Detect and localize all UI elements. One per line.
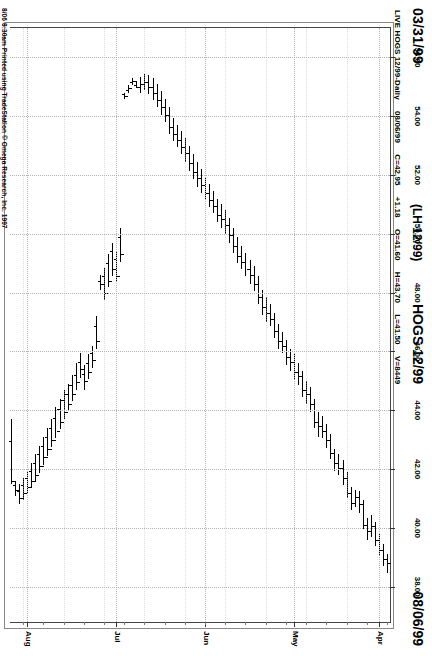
print-credit-label: 8/06 8:30am Printed using TradeStation ©… — [1, 8, 8, 229]
ohlc-close-tick — [17, 491, 20, 492]
ohlc-open-tick — [311, 404, 314, 405]
date-axis-tick — [294, 622, 295, 627]
ohlc-close-tick — [9, 441, 12, 442]
ohlc-open-tick — [335, 463, 338, 464]
ohlc-close-tick — [98, 281, 101, 282]
price-axis-tick — [390, 587, 395, 588]
price-axis-tick — [390, 234, 395, 235]
price-axis-tick — [390, 116, 395, 117]
ohlc-high-low-line — [383, 544, 384, 566]
date-axis-minor-tick — [326, 622, 327, 625]
ohlc-high-low-line — [88, 354, 89, 379]
ohlc-high-low-line — [241, 246, 242, 270]
date-axis-minor-tick — [347, 622, 348, 625]
price-axis-tick-label: 50.00 — [413, 224, 422, 244]
ohlc-high-low-line — [92, 346, 93, 368]
ohlc-open-tick — [255, 284, 258, 285]
ohlc-close-tick — [126, 90, 129, 91]
ohlc-open-tick — [218, 215, 221, 216]
ohlc-high-low-line — [31, 463, 32, 488]
ohlc-high-low-line — [213, 191, 214, 213]
quote-change: +1.18 — [393, 197, 402, 218]
ohlc-open-tick — [52, 440, 55, 441]
ohlc-open-tick — [352, 503, 355, 504]
ohlc-high-low-line — [246, 253, 247, 277]
date-axis-minor-tick — [84, 622, 85, 625]
ohlc-open-tick — [186, 153, 189, 154]
ohlc-open-tick — [194, 172, 197, 173]
date-subgridline — [225, 28, 226, 622]
ohlc-open-tick — [28, 487, 31, 488]
ohlc-open-tick — [368, 531, 371, 532]
date-gridline — [27, 28, 28, 622]
ohlc-close-tick — [74, 375, 77, 376]
plot-area[interactable]: 56.0054.0052.0050.0048.0046.0044.0042.00… — [10, 27, 391, 623]
ohlc-open-tick — [307, 394, 310, 395]
date-axis-minor-tick — [367, 622, 368, 625]
ohlc-open-tick — [73, 394, 76, 395]
ohlc-open-tick — [129, 88, 132, 89]
ohlc-high-low-line — [326, 424, 327, 449]
ohlc-high-low-line — [68, 384, 69, 410]
date-subgridline — [23, 28, 24, 622]
ohlc-high-low-line — [209, 184, 210, 208]
ohlc-open-tick — [380, 550, 383, 551]
ohlc-open-tick — [162, 107, 165, 108]
ohlc-open-tick — [89, 372, 92, 373]
price-axis-tick — [390, 175, 395, 176]
ohlc-high-low-line — [96, 316, 97, 348]
ohlc-open-tick — [287, 357, 290, 358]
ohlc-open-tick — [32, 481, 35, 482]
ohlc-open-tick — [77, 382, 80, 383]
ohlc-close-tick — [134, 85, 137, 86]
quote-high: H=43.70 — [393, 272, 402, 303]
ohlc-high-low-line — [60, 399, 61, 430]
ohlc-high-low-line — [237, 237, 238, 263]
ohlc-close-tick — [78, 362, 81, 363]
ohlc-high-low-line — [254, 266, 255, 291]
price-gridline — [10, 469, 390, 470]
date-axis-minor-tick — [144, 622, 145, 625]
date-gridline — [294, 28, 295, 622]
ohlc-high-low-line — [310, 387, 311, 412]
price-axis-tick-label: 40.00 — [413, 518, 422, 538]
ohlc-open-tick — [48, 449, 51, 450]
ohlc-open-tick — [145, 82, 148, 83]
ohlc-high-low-line — [51, 419, 52, 447]
date-axis-minor-tick — [104, 622, 105, 625]
ohlc-open-tick — [174, 134, 177, 135]
ohlc-close-tick — [106, 263, 109, 264]
ohlc-high-low-line — [274, 313, 275, 338]
ohlc-open-tick — [230, 235, 233, 236]
date-axis-tick-label: May — [291, 631, 300, 647]
date-axis-tick-label: Jul — [113, 631, 122, 643]
date-subgridline — [185, 28, 186, 622]
ohlc-high-low-line — [233, 228, 234, 253]
ohlc-high-low-line — [355, 490, 356, 508]
ohlc-open-tick — [81, 369, 84, 370]
ohlc-high-low-line — [189, 146, 190, 171]
ohlc-open-tick — [299, 376, 302, 377]
ohlc-open-tick — [348, 493, 351, 494]
ohlc-high-low-line — [72, 375, 73, 401]
price-axis-tick-label: 42.00 — [413, 459, 422, 479]
ohlc-high-low-line — [201, 169, 202, 193]
ohlc-high-low-line — [80, 353, 81, 378]
ohlc-open-tick — [16, 490, 19, 491]
ohlc-open-tick — [259, 297, 262, 298]
ohlc-open-tick — [57, 431, 60, 432]
ohlc-high-low-line — [298, 363, 299, 385]
price-axis-tick-label: 46.00 — [413, 341, 422, 361]
ohlc-open-tick — [331, 453, 334, 454]
ohlc-high-low-line — [282, 332, 283, 353]
ohlc-high-low-line — [278, 324, 279, 349]
ohlc-close-tick — [130, 82, 133, 83]
ohlc-open-tick — [178, 140, 181, 141]
price-gridline — [10, 57, 390, 58]
date-axis-tick-label: Apr — [375, 631, 384, 645]
end-date-label: 08/06/99 — [410, 592, 426, 647]
price-axis-tick-label: 52.00 — [413, 165, 422, 185]
ohlc-open-tick — [65, 412, 68, 413]
ohlc-open-tick — [206, 193, 209, 194]
ohlc-close-tick — [82, 374, 85, 375]
